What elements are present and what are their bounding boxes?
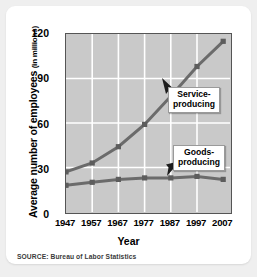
annotation-service-producing: Service- producing	[168, 87, 220, 113]
source-note: SOURCE: Bureau of Labor Statistics	[17, 253, 136, 260]
x-tick-label-2007: 2007	[205, 217, 239, 228]
annotation-goods-producing: Goods- producing	[173, 145, 225, 171]
annotation-goods-producing-line2: producing	[178, 158, 220, 168]
y-tick-label-60: 60	[9, 118, 49, 130]
y-tick-label-0: 0	[9, 208, 49, 220]
y-tick-label-30: 30	[9, 163, 49, 175]
annotation-service-producing-line2: producing	[173, 100, 215, 110]
chart-svg	[66, 34, 230, 212]
plot-area	[65, 33, 232, 214]
chart-page: Average number of employees (in millions…	[0, 0, 257, 277]
y-axis-title-main: Average number of employees	[27, 71, 39, 218]
x-axis-ticks: 1947 1957 1967 1977 1987 1997 2007	[46, 217, 253, 233]
chart-card: Average number of employees (in millions…	[6, 6, 251, 264]
y-tick-label-90: 90	[9, 72, 49, 84]
series-goods-producing	[66, 174, 226, 188]
x-axis-title: Year	[6, 235, 251, 247]
y-tick-label-120: 120	[9, 27, 49, 39]
